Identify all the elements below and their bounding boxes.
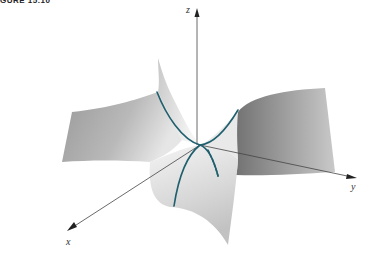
z-axis-label: z: [186, 4, 190, 15]
z-axis-arrow-icon: [195, 8, 200, 17]
y-axis-label: y: [351, 181, 355, 192]
x-axis-arrow-icon: [67, 222, 77, 231]
y-axis-arrow-icon: [346, 174, 357, 179]
x-axis-label: x: [66, 236, 70, 247]
surface-front-lobe: [150, 145, 238, 245]
saddle-surface-figure: [0, 0, 368, 253]
